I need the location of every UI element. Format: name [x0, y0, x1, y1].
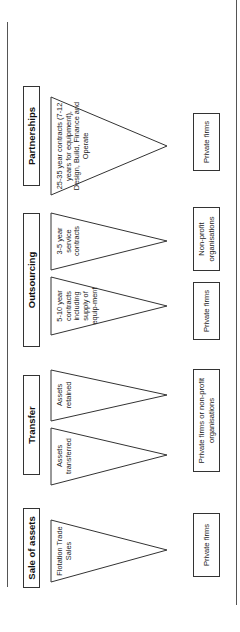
- option-label-assets-retained: Assets retained: [56, 376, 73, 414]
- provider-label: Private firms: [202, 290, 211, 332]
- option-label-equipment-contracts: 5-10 year contracts including supply of …: [56, 283, 100, 329]
- option-label-assets-transferred: Assets transferred: [56, 430, 73, 482]
- provider-label: Non-profit organisations: [197, 210, 215, 268]
- option-label-service-contracts: 3-5 year service contracts: [56, 220, 82, 262]
- provider-transfer-mixed: Private firms or non-profit organisation…: [193, 369, 220, 472]
- provider-outsourcing-nonprofit: Non-profit organisations: [193, 207, 220, 271]
- provider-partnerships-private: Private firms: [193, 113, 220, 171]
- option-label-flotation: Flotation Trade Sales: [56, 525, 73, 577]
- provider-outsourcing-private: Private firms: [193, 282, 220, 340]
- provider-label: Private firms: [202, 121, 211, 163]
- option-label-partnerships: 25-35 year contracts (7-12 years for equ…: [56, 101, 91, 191]
- provider-sale-private: Private firms: [193, 513, 220, 577]
- provider-label: Private firms or non-profit organisation…: [197, 372, 215, 469]
- procurement-spectrum-diagram: Partnerships Outsourcing Transfer Sale o…: [0, 0, 240, 632]
- provider-label: Private firms: [202, 524, 211, 566]
